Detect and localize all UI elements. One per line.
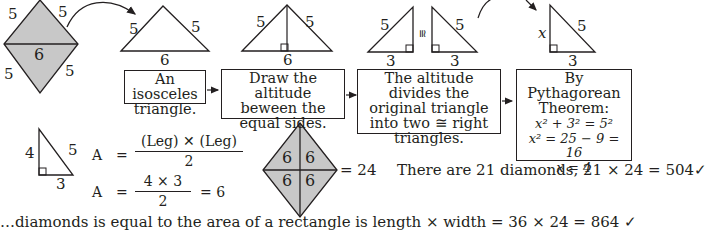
side-label: 5 bbox=[8, 7, 18, 22]
area-lhs: A bbox=[92, 185, 102, 200]
bottom-text: …diamonds is equal to the area of a rect… bbox=[0, 213, 637, 231]
step-3-caption: The altitude divides the original triang… bbox=[357, 69, 501, 134]
denominator: 2 bbox=[135, 152, 243, 169]
base-label: 6 bbox=[283, 53, 293, 68]
leg-label: 4 bbox=[25, 146, 35, 161]
cell-value: 6 bbox=[305, 150, 315, 165]
area-lhs: A bbox=[92, 148, 102, 163]
equals-sign: = bbox=[116, 148, 128, 163]
hyp-label: 5 bbox=[455, 18, 465, 33]
hyp-label: 5 bbox=[577, 19, 587, 34]
base-label: 3 bbox=[56, 177, 66, 192]
side-label: 5 bbox=[4, 67, 14, 82]
cell-value: 6 bbox=[305, 173, 315, 188]
side-label: 5 bbox=[58, 5, 68, 20]
equation-line: x² + 3² = 5² bbox=[519, 117, 629, 132]
base-label: 6 bbox=[160, 53, 170, 68]
leg-x-label: x bbox=[538, 26, 546, 41]
congruent-symbol: ≅ bbox=[415, 29, 430, 38]
step-4-box: By Pythagorean Theorem: x² + 3² = 5² x² … bbox=[516, 69, 632, 161]
area-fraction-1: (Leg) ✕ (Leg) 2 bbox=[135, 134, 243, 169]
side-label: 5 bbox=[305, 15, 315, 30]
cell-value: 6 bbox=[282, 173, 292, 188]
base-label: 3 bbox=[450, 54, 460, 69]
pythagorean-triangle bbox=[550, 5, 595, 52]
quartered-diamond bbox=[263, 123, 337, 217]
numerator: (Leg) ✕ (Leg) bbox=[135, 134, 243, 152]
equation-line: x² = 25 − 9 = 16 bbox=[519, 132, 629, 161]
hyp-label: 5 bbox=[68, 143, 78, 158]
base-label: 3 bbox=[568, 54, 578, 69]
side-label: 5 bbox=[256, 15, 266, 30]
curved-arrow-2 bbox=[478, 0, 494, 18]
hyp-label: 5 bbox=[380, 18, 390, 33]
side-label: 5 bbox=[129, 22, 139, 37]
base-label: 3 bbox=[386, 54, 396, 69]
step-1-caption: An isosceles triangle. bbox=[124, 70, 206, 104]
denominator: 2 bbox=[135, 192, 191, 209]
side-label: 5 bbox=[65, 64, 75, 79]
diagonal-label: 6 bbox=[34, 47, 44, 62]
side-label: 5 bbox=[191, 20, 201, 35]
summary-text: There are 21 diamonds, 21 × 24 = 504✓ bbox=[397, 163, 707, 178]
step-4-caption: By Pythagorean Theorem: bbox=[519, 71, 629, 116]
step-2-caption: Draw the altitude beween the equal sides… bbox=[221, 69, 345, 119]
diamond-total: = 24 bbox=[340, 163, 376, 178]
cell-value: 6 bbox=[282, 150, 292, 165]
area-fraction-2: 4 × 3 2 bbox=[135, 174, 191, 209]
equals-sign: = bbox=[116, 185, 128, 200]
numerator: 4 × 3 bbox=[135, 174, 191, 192]
curved-arrow bbox=[67, 2, 135, 27]
area-result: = 6 bbox=[200, 185, 225, 200]
